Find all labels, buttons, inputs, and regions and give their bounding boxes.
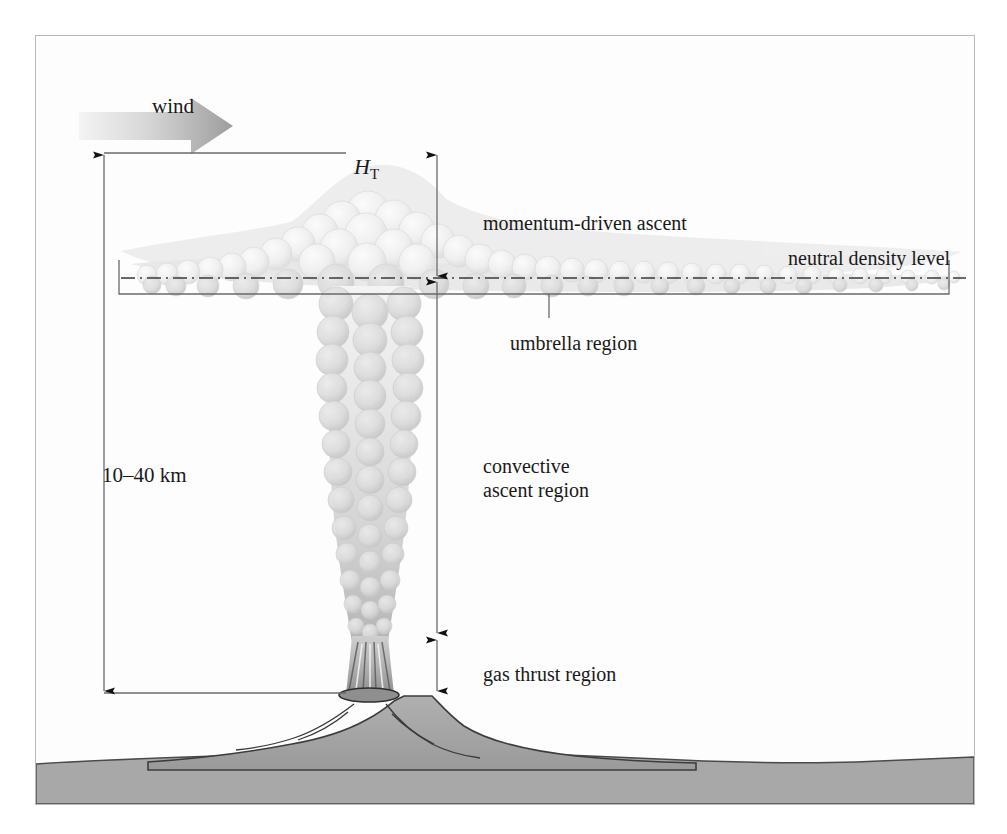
momentum-ascent-label: momentum-driven ascent (483, 212, 687, 236)
convective-ascent-label-line2: ascent region (483, 479, 589, 503)
column-height-label: 10–40 km (102, 463, 187, 488)
figure-frame: wind HT momentum-driven ascent neutral d… (35, 35, 975, 805)
umbrella-region-label: umbrella region (510, 332, 637, 356)
wind-label: wind (152, 94, 194, 119)
convective-ascent-label: convective ascent region (483, 455, 589, 502)
total-height-subscript: T (370, 166, 379, 182)
convective-ascent-label-line1: convective (483, 455, 589, 479)
total-height-symbol: H (354, 154, 370, 179)
total-height-label: HT (354, 154, 379, 184)
convective-column (316, 286, 424, 642)
neutral-density-label: neutral density level (788, 247, 950, 271)
gas-thrust-jet (346, 636, 394, 694)
gas-thrust-label: gas thrust region (483, 663, 616, 687)
figure-stage: wind HT momentum-driven ascent neutral d… (0, 0, 1007, 834)
eruption-column-diagram (36, 36, 974, 804)
